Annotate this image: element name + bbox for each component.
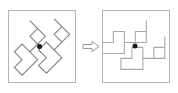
figure-root bbox=[0, 0, 178, 93]
after-rotation-panel bbox=[102, 10, 170, 83]
arrow-outline bbox=[83, 42, 99, 52]
before-rotation-canvas bbox=[9, 11, 75, 82]
zigzag-shape-right bbox=[39, 19, 70, 73]
before-rotation-panel bbox=[8, 10, 76, 83]
pivot-dot bbox=[37, 44, 42, 49]
pivot-dot bbox=[133, 43, 138, 48]
after-rotation-canvas bbox=[103, 11, 169, 82]
right-arrow-icon bbox=[82, 40, 100, 53]
right-arrow-glyph bbox=[82, 40, 100, 53]
zigzag-shape-left-rotated bbox=[103, 11, 157, 70]
